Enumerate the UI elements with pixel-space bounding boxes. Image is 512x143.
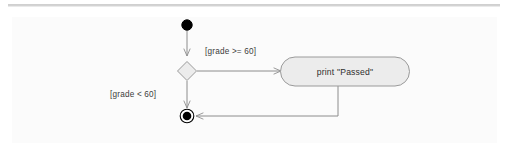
diagram-canvas: [grade >= 60] [grade < 60] print "Passed… [0, 0, 512, 143]
final-node[interactable] [180, 109, 194, 123]
guard-label-pass: [grade >= 60] [205, 47, 256, 56]
action-node-print-passed[interactable]: print "Passed" [281, 57, 410, 86]
initial-node[interactable] [182, 20, 192, 30]
guard-label-fail: [grade < 60] [110, 90, 156, 99]
final-node-inner-dot [183, 112, 192, 121]
background-panel [12, 17, 497, 143]
initial-node-circle[interactable] [182, 20, 192, 30]
activity-diagram: [grade >= 60] [grade < 60] print "Passed… [0, 0, 512, 143]
action-node-label: print "Passed" [317, 67, 374, 77]
